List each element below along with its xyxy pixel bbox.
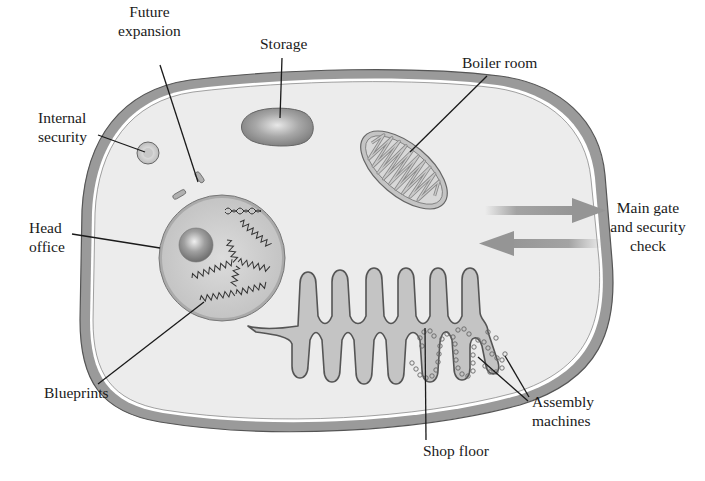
vacuole-storage [242,108,314,146]
diagram-canvas [0,0,705,481]
label-future-expansion: Future expansion [118,2,181,40]
label-head-office: Head office [29,218,65,256]
cell-factory-diagram: Future expansion Storage Boiler room Int… [0,0,705,481]
label-boiler-room: Boiler room [462,53,537,72]
label-assembly-machines: Assembly machines [532,392,594,430]
label-shop-floor: Shop floor [423,441,489,460]
nucleolus [179,228,213,262]
label-main-gate: Main gate and security check [604,198,692,255]
label-storage: Storage [260,34,307,53]
label-blueprints: Blueprints [44,383,109,402]
nucleus-head-office [159,195,285,321]
label-internal-security: Internal security [38,108,87,146]
lysosome-internal-security [137,142,159,164]
